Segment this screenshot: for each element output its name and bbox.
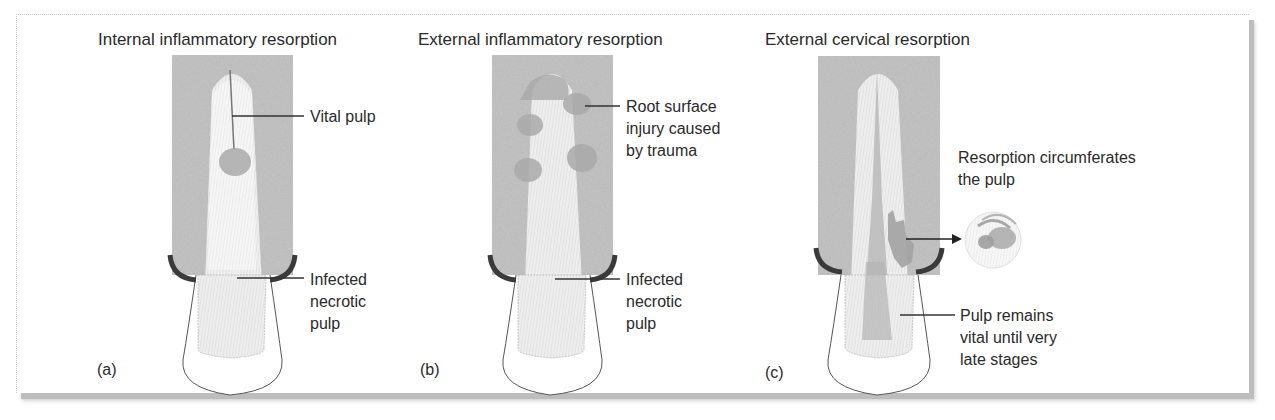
panel-tag: (c) [765, 364, 784, 381]
panel-c: External cervical resorption Resorption … [765, 30, 1140, 395]
infected-necrotic-pulp-label: Infected necrotic pulp [310, 271, 371, 332]
resorption-defect [517, 114, 543, 136]
resorption-defect [563, 93, 591, 115]
panel-title: External inflammatory resorption [418, 30, 663, 49]
tooth-illustration [816, 56, 942, 395]
tooth-resorption-figure: Internal inflammatory resorption Vital p… [0, 0, 1275, 420]
pulp-remains-vital-label: Pulp remains vital until very late stage… [960, 307, 1061, 368]
pulp-chamber [198, 275, 266, 358]
vital-pulp-label: Vital pulp [310, 108, 376, 125]
panel-title: External cervical resorption [765, 30, 970, 49]
panel-tag: (a) [97, 361, 117, 378]
root-surface-injury-label: Root surface injury caused by trauma [626, 98, 725, 159]
pulp-chamber [518, 275, 586, 358]
infected-necrotic-pulp-label: Infected necrotic pulp [626, 271, 687, 332]
cross-section-inset [965, 212, 1021, 268]
internal-resorption-lesion [219, 148, 251, 176]
arrow-head-icon [952, 234, 962, 244]
resorption-circumferates-label: Resorption circumferates the pulp [958, 149, 1140, 188]
panel-b: External inflammatory resorption Root su… [418, 30, 725, 395]
panel-a: Internal inflammatory resorption Vital p… [97, 30, 376, 395]
tooth-illustration [170, 55, 295, 395]
panel-tag: (b) [420, 361, 440, 378]
resorption-defect [567, 144, 597, 172]
resorption-defect [514, 158, 542, 182]
panel-title: Internal inflammatory resorption [98, 30, 337, 49]
